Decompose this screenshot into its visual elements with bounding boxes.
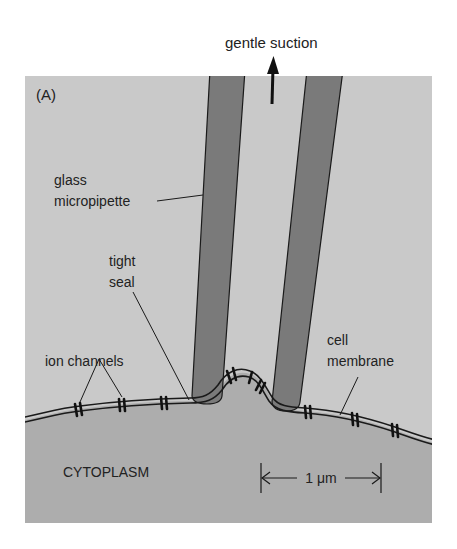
ion-channels-label: ion channels [45, 353, 124, 369]
pipette-label-line2: micropipette [54, 193, 130, 209]
panel-label: (A) [36, 86, 56, 103]
pipette-label-line1: glass [54, 172, 87, 188]
scale-label: 1 μm [305, 470, 336, 486]
patch-clamp-diagram: gentle suction (A) glass micropipette ti… [0, 0, 457, 549]
suction-label: gentle suction [225, 34, 318, 51]
membrane-label-line2: membrane [327, 353, 394, 369]
cytoplasm-label: CYTOPLASM [63, 464, 149, 480]
membrane-label-line1: cell [327, 332, 348, 348]
seal-label-line1: tight [109, 253, 136, 269]
seal-label-line2: seal [109, 274, 135, 290]
